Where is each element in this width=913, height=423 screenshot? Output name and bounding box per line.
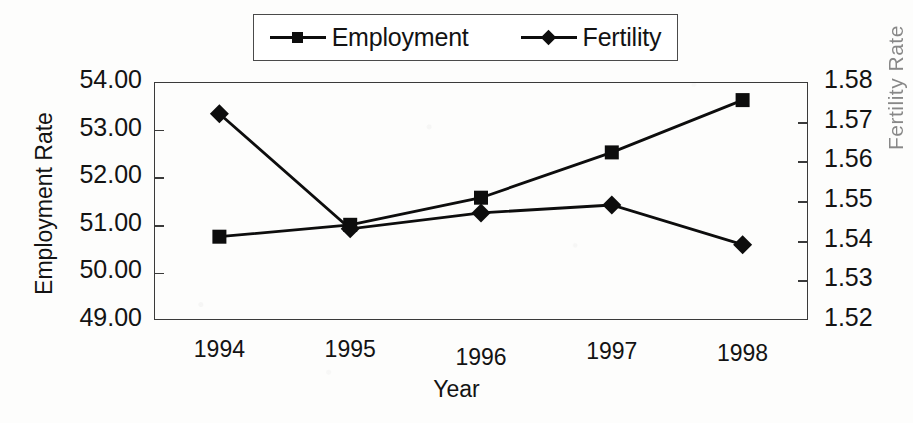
x-tick-label: 1994 (164, 336, 274, 363)
legend-label-employment: Employment (326, 23, 469, 52)
legend-marker-diamond-icon (521, 29, 577, 47)
y-tick-left (155, 130, 164, 132)
y-tick-right (798, 201, 807, 203)
y-tick-label-left: 50.00 (22, 255, 142, 284)
legend-entry-employment[interactable]: Employment (270, 23, 469, 52)
y-tick-label-right: 1.53 (824, 263, 913, 292)
y-tick-label-right: 1.56 (824, 144, 913, 173)
chart-legend: Employment Fertility (253, 14, 678, 61)
y-tick-right (798, 161, 807, 163)
y-tick-left (155, 177, 164, 179)
y-tick-label-left: 54.00 (22, 65, 142, 94)
y-tick-right (798, 241, 807, 243)
y-tick-label-left: 53.00 (22, 113, 142, 142)
legend-label-fertility: Fertility (577, 23, 662, 52)
x-tick-label: 1997 (557, 338, 667, 365)
y-tick-left (155, 225, 164, 227)
y-tick-label-right: 1.52 (824, 303, 913, 332)
x-tick-label: 1995 (295, 336, 405, 363)
x-axis-title: Year (0, 376, 913, 403)
legend-entry-fertility[interactable]: Fertility (521, 23, 662, 52)
y-tick-label-right: 1.55 (824, 184, 913, 213)
y-tick-label-left: 49.00 (22, 303, 142, 332)
y-tick-label-left: 51.00 (22, 208, 142, 237)
y-tick-right (798, 122, 807, 124)
x-tick-label: 1996 (426, 344, 536, 371)
y-tick-label-right: 1.57 (824, 105, 913, 134)
chart-figure: Employment Fertility Employment Rate Yea… (0, 0, 913, 423)
y-tick-label-right: 1.58 (824, 65, 913, 94)
y-tick-right (798, 280, 807, 282)
legend-marker-square-icon (270, 29, 326, 47)
y-tick-left (155, 273, 164, 275)
y-tick-label-left: 52.00 (22, 160, 142, 189)
y-tick-label-right: 1.54 (824, 224, 913, 253)
plot-area (154, 82, 808, 320)
x-tick-label: 1998 (688, 340, 798, 367)
